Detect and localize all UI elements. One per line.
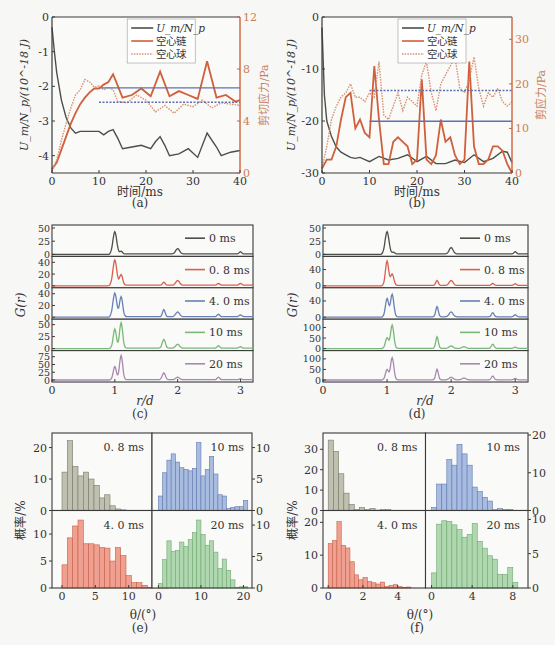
y-tick-label: 50	[38, 223, 50, 234]
y-tick-label: 10	[256, 442, 270, 455]
time-label: 10 ms	[486, 441, 520, 454]
histogram-bar	[328, 544, 332, 588]
x-tick-label: 30	[458, 175, 472, 188]
histogram-bar	[67, 441, 72, 511]
x-tick-label: 10	[122, 590, 136, 603]
y-tick-label: 0	[315, 249, 321, 260]
x-axis-label-a: 时间/ms	[117, 185, 163, 199]
y-tick-label: 5	[40, 555, 47, 568]
right-tick-label: 0	[243, 167, 250, 180]
histogram-bar	[363, 577, 367, 588]
y-tick-label: -20	[301, 115, 319, 128]
y-tick-label: 100	[303, 353, 321, 364]
histogram-bar	[201, 535, 205, 588]
x-axis-label-d: r/d	[416, 394, 434, 408]
histogram-bar	[513, 583, 518, 588]
y-tick-label: 10	[532, 467, 546, 480]
y-tick-label: 20	[38, 300, 50, 311]
histogram-bar	[508, 567, 513, 588]
histogram-bar	[339, 474, 344, 511]
y-tick-label: 0	[256, 505, 263, 518]
histogram-bar	[163, 560, 167, 588]
y-tick-label: 5	[532, 548, 539, 561]
y-tick-label: 75	[38, 351, 50, 362]
histogram-bar	[167, 541, 171, 588]
histogram-subpanel: 05100102020 ms	[152, 511, 270, 604]
histogram-bar	[341, 545, 345, 588]
histogram-bar	[472, 487, 477, 510]
x-tick-label: 8	[509, 590, 516, 603]
histogram-bar	[243, 500, 247, 510]
y-tick-label: 10	[532, 513, 546, 526]
y-tick-label: 0	[40, 582, 47, 595]
histogram-bar	[477, 492, 482, 511]
histogram-bar	[99, 548, 104, 588]
figure-canvas: 0102030400-1-2-3-404812U_m/N_p空心链空心球 010…	[0, 0, 555, 645]
histogram-bar	[457, 530, 462, 588]
y-tick-label: 10	[33, 528, 47, 541]
histogram-bar	[115, 548, 120, 588]
right-tick-label: 12	[243, 11, 257, 24]
histogram-bar	[94, 545, 99, 588]
histogram-bar	[333, 451, 338, 510]
x-axis-label-f: θ/(°)	[407, 608, 434, 622]
y-tick-label: 50	[309, 223, 321, 234]
histogram-bar	[235, 507, 239, 511]
histogram-bar	[452, 465, 457, 510]
rdf-subpanel: 0404. 0 ms	[309, 288, 528, 323]
x-tick-label: 5	[92, 590, 99, 603]
histogram-bar	[163, 473, 167, 511]
histogram-bar	[222, 559, 226, 588]
x-tick-label: 3	[237, 384, 244, 397]
rdf-subpanel: 05010020 ms	[303, 351, 528, 386]
legend: U_m/N_p空心链空心球	[398, 19, 476, 63]
histogram-bar	[487, 556, 492, 588]
rdf-subpanel: 025500 ms	[38, 223, 253, 260]
y-tick-label: 40	[309, 295, 321, 306]
histogram-bar	[482, 548, 487, 588]
y-tick-label: 20	[33, 442, 47, 455]
histogram-bar	[188, 540, 192, 588]
histogram-bar	[452, 525, 457, 588]
x-tick-label: 2	[448, 384, 455, 397]
y-tick-label: 0	[40, 505, 47, 518]
rdf-subpanel: 05010010 ms	[303, 319, 528, 354]
time-label: 4. 0 ms	[377, 519, 418, 532]
legend-entry: 空心链	[427, 35, 458, 47]
x-axis-label-e: θ/(°)	[130, 608, 157, 622]
histogram-bar	[188, 471, 192, 511]
histogram-bar	[167, 460, 171, 510]
time-label: 0. 8 ms	[377, 441, 418, 454]
time-label: 10 ms	[210, 441, 244, 454]
histogram-bar	[205, 545, 209, 588]
y-tick-label: -10	[301, 63, 319, 76]
histogram-bar	[447, 460, 452, 511]
histogram-bar	[205, 470, 209, 511]
histogram-bar	[346, 548, 350, 588]
time-label: 20 ms	[210, 519, 244, 532]
y-tick-label: 25	[309, 236, 321, 247]
histogram-bar	[73, 526, 78, 588]
histogram-bar	[447, 521, 452, 588]
y-tick-label: -1	[38, 46, 49, 59]
y-tick-label: 10	[33, 473, 47, 486]
x-tick-label: 0	[155, 590, 162, 603]
histogram-bar	[239, 507, 243, 511]
histogram-bar	[209, 456, 213, 510]
y-tick-label: 10	[256, 519, 270, 532]
y-tick-label: 50	[38, 319, 50, 330]
histogram-bar	[62, 565, 67, 588]
y-tick-label: 20	[532, 429, 546, 442]
histogram-bar	[467, 465, 472, 510]
x-tick-label: 3	[512, 384, 519, 397]
histogram-bar	[477, 541, 482, 588]
y-tick-label: 25	[38, 236, 50, 247]
histogram-bar	[214, 552, 218, 588]
x-tick-label: 10	[194, 590, 208, 603]
y-tick-label: 5	[256, 551, 263, 564]
y-tick-label: 20	[304, 464, 318, 477]
histogram-subpanel: 051004820 ms	[426, 511, 547, 604]
histogram-bar	[184, 546, 188, 588]
histogram-bar	[89, 479, 94, 510]
right-tick-label: 10	[515, 122, 529, 135]
